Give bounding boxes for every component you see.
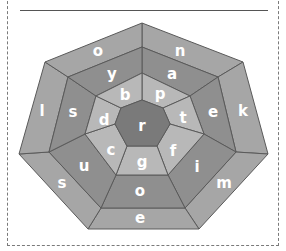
outer-letter-6: l — [39, 102, 44, 120]
middle-letter-6: s — [69, 103, 78, 121]
inner-letter-5: c — [107, 141, 116, 159]
inner-letter-2: t — [179, 109, 186, 127]
outer-letter-7: o — [93, 42, 103, 60]
outer-letter-1: n — [175, 42, 186, 60]
inner-letter-3: f — [170, 142, 177, 160]
middle-letter-7: y — [107, 65, 117, 83]
middle-letter-4: o — [135, 182, 145, 200]
middle-letter-5: u — [79, 157, 90, 175]
inner-letter-6: d — [99, 111, 110, 129]
outer-letter-4: e — [135, 209, 145, 227]
inner-letter-1: p — [155, 85, 166, 103]
inner-letter-4: g — [137, 153, 148, 171]
middle-letter-1: a — [167, 65, 177, 83]
heptagon-letter-wheel: n k m e s l o a e i o u s y p t f g c d … — [0, 0, 286, 251]
inner-letter-7: b — [120, 86, 131, 104]
center-letter: r — [138, 117, 146, 135]
middle-letter-2: e — [208, 103, 218, 121]
outer-letter-3: m — [216, 174, 232, 192]
middle-letter-3: i — [194, 158, 199, 176]
outer-letter-2: k — [238, 102, 249, 120]
outer-letter-5: s — [58, 174, 67, 192]
